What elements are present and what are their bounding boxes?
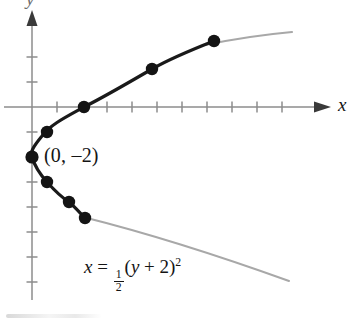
equation-plus: +: [144, 256, 155, 277]
data-point: [146, 63, 158, 75]
equation-lhs: x: [84, 256, 92, 277]
x-axis-label: x: [338, 94, 346, 116]
equation-variable: y: [131, 256, 139, 277]
data-point-vertex: [25, 150, 38, 163]
curve-extensions: [83, 32, 292, 281]
equation-fraction-one-half: 1 2: [114, 269, 124, 295]
data-point: [79, 212, 91, 224]
equation-exponent: 2: [175, 256, 181, 269]
parabola-curve: [31, 41, 214, 218]
data-point: [41, 176, 53, 188]
parabola-figure: y x (0, –2) x = 1 2 (y + 2)2: [0, 0, 355, 323]
fraction-denominator: 2: [114, 281, 124, 294]
data-point: [78, 101, 90, 113]
page-scan-artifact: [6, 314, 102, 318]
vertex-point-label: (0, –2): [44, 144, 99, 167]
y-axis-arrow-icon: [27, 10, 38, 26]
fraction-numerator: 1: [114, 269, 124, 281]
equation-constant: 2: [160, 256, 170, 277]
data-point: [208, 35, 220, 47]
data-point: [41, 126, 53, 138]
equation-equals: =: [97, 256, 108, 277]
plotted-points: [25, 35, 220, 224]
data-point: [63, 196, 75, 208]
y-axis-label: y: [26, 0, 34, 10]
x-axis-arrow-icon: [314, 102, 331, 113]
equation-label: x = 1 2 (y + 2)2: [84, 256, 181, 294]
